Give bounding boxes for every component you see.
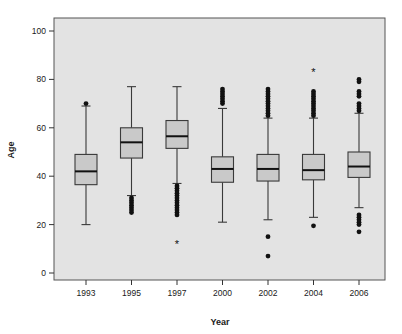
x-tick-label: 1997 [168,288,187,298]
y-tick-label: 80 [37,74,47,84]
x-tick-label: 2000 [213,288,232,298]
x-tick-label: 1993 [77,288,96,298]
extreme-point: * [311,66,316,78]
boxplot-figure: 020406080100 199319951997200020022004200… [0,0,402,334]
outlier-point [220,101,225,106]
outlier-point [175,213,180,218]
x-tick-label: 2006 [350,288,369,298]
outlier-point [357,222,362,227]
x-tick-label: 2004 [304,288,323,298]
outlier-point [266,234,271,239]
x-axis: 1993199519972000200220042006 [77,280,369,298]
y-axis-label: Age [6,141,16,158]
x-tick-label: 1995 [122,288,141,298]
box-iqr [303,154,325,179]
y-tick-label: 20 [37,220,47,230]
outlier-point [311,223,316,228]
outlier-point [311,113,316,118]
outlier-point [357,108,362,113]
extreme-point: * [175,238,180,250]
y-axis: 020406080100 [32,26,54,278]
y-tick-label: 60 [37,123,47,133]
box-iqr [166,121,188,149]
outlier-point [357,94,362,99]
y-tick-label: 0 [41,268,46,278]
outlier-point [266,254,271,259]
x-tick-label: 2002 [259,288,278,298]
box-iqr [75,154,97,184]
box-iqr [348,152,370,177]
outlier-point [129,210,134,215]
outlier-point [266,113,271,118]
y-tick-label: 100 [32,26,46,36]
y-tick-label: 40 [37,171,47,181]
outlier-point [357,79,362,84]
plot-panel [54,18,385,280]
x-axis-label: Year [210,317,230,327]
boxplot-svg: 020406080100 199319951997200020022004200… [0,0,402,334]
box-iqr [257,154,279,181]
outlier-point [357,229,362,234]
outlier-point [84,101,89,106]
